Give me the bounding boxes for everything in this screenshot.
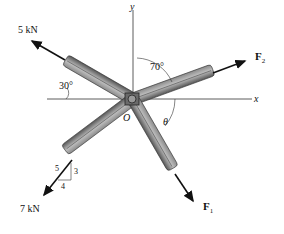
arrow-f2: [213, 61, 245, 73]
label-y-axis: y: [130, 2, 134, 12]
member-f1: [128, 96, 178, 171]
label-f2: F2: [255, 51, 265, 65]
label-slope-vertical: 3: [74, 168, 78, 176]
label-7kn: 7 kN: [20, 204, 40, 214]
force-diagram: [0, 0, 284, 234]
label-f1: F1: [203, 201, 213, 215]
slope-triangle: [58, 163, 71, 180]
label-5kn: 5 kN: [18, 25, 38, 35]
label-x-axis: x: [254, 94, 258, 104]
arrow-5kn: [32, 41, 65, 60]
pin-icon: [128, 95, 136, 103]
label-theta: θ: [163, 117, 168, 127]
label-slope-hyp: 5: [55, 165, 59, 173]
arrow-f1: [175, 174, 193, 201]
member-f2: [131, 64, 215, 104]
label-origin: O: [123, 113, 130, 123]
label-30deg: 30°: [59, 81, 73, 91]
label-70deg: 70°: [150, 62, 164, 72]
label-slope-horizontal: 4: [61, 183, 65, 191]
